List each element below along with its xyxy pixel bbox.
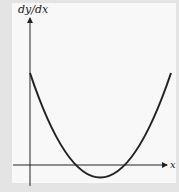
derivative-chart: dy/dx x bbox=[0, 0, 179, 192]
y-axis-label: dy/dx bbox=[18, 3, 49, 16]
x-axis-label: x bbox=[170, 159, 176, 170]
derivative-curve bbox=[30, 73, 171, 178]
